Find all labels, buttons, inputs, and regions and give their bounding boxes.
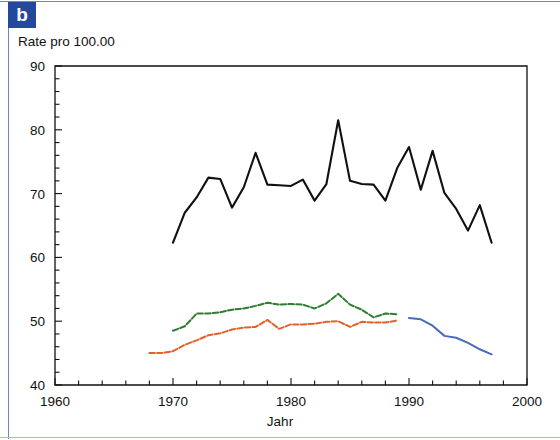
x-axis-label: Jahr: [0, 414, 560, 429]
y-tick-label: 60: [30, 250, 45, 265]
y-tick-label: 70: [30, 187, 45, 202]
x-tick-label: 2000: [512, 394, 542, 409]
x-tick-label: 1990: [394, 394, 424, 409]
y-tick-label: 40: [30, 378, 45, 393]
x-tick-label: 1960: [40, 394, 70, 409]
y-tick-label: 50: [30, 314, 45, 329]
y-tick-label: 90: [30, 59, 45, 74]
y-tick-label: 80: [30, 123, 45, 138]
line-chart-plot: 19601970198019902000405060708090: [0, 0, 560, 440]
x-tick-label: 1970: [158, 394, 188, 409]
chart-figure: b Rate pro 100.00 1960197019801990200040…: [0, 0, 560, 440]
x-tick-label: 1980: [276, 394, 306, 409]
